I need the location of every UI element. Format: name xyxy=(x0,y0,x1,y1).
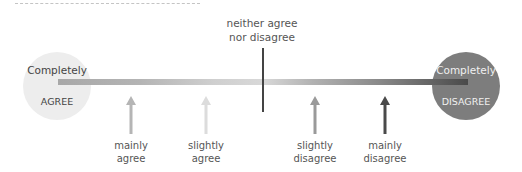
slightly-disagree-label: slightly disagree xyxy=(293,139,336,165)
slightly-agree-arrow-icon xyxy=(200,96,212,134)
completely-agree-circle xyxy=(23,52,91,120)
neutral-label-line2: nor disagree xyxy=(226,30,297,44)
right-anchor-label-top: Completely xyxy=(436,64,496,76)
left-anchor-label-bottom: AGREE xyxy=(41,96,73,107)
top-dashed-rule xyxy=(15,3,200,4)
left-anchor-label-top: Completely xyxy=(27,64,87,76)
neutral-label: neither agree nor disagree xyxy=(226,16,297,44)
mainly-disagree-arrow-icon xyxy=(379,96,391,134)
neutral-label-line1: neither agree xyxy=(226,16,297,30)
right-anchor-label-bottom: DISAGREE xyxy=(442,96,491,107)
slightly-agree-label: slightly agree xyxy=(188,139,224,165)
completely-disagree-circle xyxy=(432,52,500,120)
mainly-agree-label: mainly agree xyxy=(114,139,148,165)
neutral-divider-line xyxy=(262,48,264,112)
mainly-agree-arrow-icon xyxy=(125,96,137,134)
mainly-disagree-label: mainly disagree xyxy=(363,139,406,165)
slightly-disagree-arrow-icon xyxy=(309,96,321,134)
